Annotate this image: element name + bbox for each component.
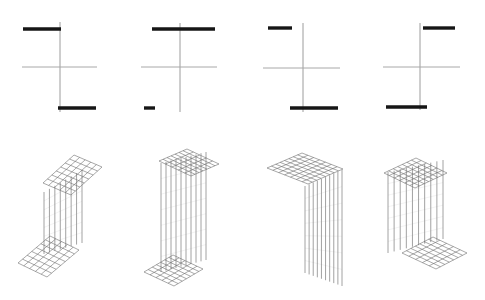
mesh-line	[161, 198, 206, 209]
mesh-line	[388, 183, 443, 196]
mesh-line	[296, 164, 331, 179]
top-flange-mesh	[267, 153, 343, 184]
mesh-line	[41, 247, 73, 274]
mesh-line	[169, 257, 199, 271]
mesh-line	[305, 203, 342, 211]
mesh-line	[422, 247, 453, 263]
mesh-line	[305, 248, 342, 253]
mesh-line	[35, 244, 67, 271]
cross-section-4	[383, 23, 460, 110]
mesh-line	[402, 253, 436, 269]
mesh-line	[165, 152, 193, 164]
mesh-line	[24, 239, 56, 266]
member-3	[267, 153, 343, 286]
mesh-line	[305, 261, 342, 270]
mesh-line	[159, 149, 187, 161]
mesh-line	[285, 160, 320, 175]
member-2	[144, 149, 219, 286]
mesh-line	[61, 167, 89, 179]
mesh-line	[406, 251, 440, 267]
figure-canvas	[0, 0, 485, 300]
top-flange-mesh	[159, 149, 219, 176]
mesh-line	[60, 162, 91, 190]
mesh-line	[161, 214, 206, 226]
mesh-line	[161, 183, 206, 194]
sections-and-members-svg	[0, 0, 485, 300]
mesh-line	[302, 167, 337, 182]
mesh-line	[290, 162, 325, 177]
mesh-line	[165, 260, 195, 274]
member-1	[18, 155, 102, 277]
mesh-line	[305, 220, 342, 224]
mesh-line	[388, 228, 443, 242]
mesh-line	[388, 216, 443, 229]
mesh-line	[47, 250, 79, 277]
mesh-line	[411, 248, 445, 264]
mesh-line	[415, 246, 449, 262]
member-4	[384, 158, 467, 269]
mesh-line	[420, 244, 454, 260]
mesh-line	[185, 161, 213, 173]
bottom-flange-mesh	[18, 236, 79, 277]
mesh-line	[18, 236, 50, 263]
mesh-line	[144, 272, 174, 286]
cross-section-3	[263, 23, 340, 112]
mesh-line	[436, 253, 467, 269]
mesh-line	[71, 167, 102, 195]
mesh-line	[156, 261, 185, 278]
mesh-line	[433, 237, 467, 253]
mesh-line	[65, 163, 93, 175]
mesh-line	[305, 187, 342, 199]
mesh-line	[424, 242, 458, 258]
mesh-line	[43, 183, 71, 195]
mesh-line	[65, 165, 96, 193]
mesh-line	[152, 267, 182, 281]
mesh-line	[54, 160, 85, 188]
mesh-line	[416, 243, 447, 259]
mesh-line	[388, 205, 443, 218]
mesh-line	[56, 171, 84, 183]
mesh-line	[150, 258, 179, 275]
mesh-line	[429, 250, 460, 266]
mesh-line	[70, 159, 98, 171]
mesh-line	[43, 155, 74, 183]
mesh-line	[148, 270, 178, 284]
web-mesh-horizontals	[305, 187, 342, 270]
mesh-line	[161, 245, 206, 257]
mesh-line	[267, 153, 302, 168]
bottom-flange-mesh	[144, 255, 203, 286]
cross-section-2	[141, 23, 217, 112]
web-mesh	[161, 152, 206, 272]
top-flange-mesh	[43, 155, 102, 195]
mesh-line	[173, 255, 203, 269]
mesh-line	[168, 266, 197, 283]
web-mesh	[305, 170, 342, 286]
mesh-line	[49, 157, 80, 185]
mesh-line	[161, 229, 206, 241]
bottom-flange-mesh	[402, 237, 467, 269]
mesh-line	[74, 155, 102, 167]
mesh-line	[388, 194, 443, 207]
mesh-line	[429, 239, 463, 255]
cross-section-1	[22, 22, 97, 112]
mesh-line	[144, 255, 173, 272]
mesh-line	[30, 242, 62, 269]
mesh-line	[305, 236, 342, 237]
mesh-line	[273, 155, 308, 170]
mesh-line	[279, 158, 314, 173]
web-mesh-horizontals	[161, 167, 206, 256]
web-mesh-horizontals	[388, 171, 443, 241]
mesh-line	[174, 269, 203, 286]
top-flange-mesh	[384, 158, 447, 188]
